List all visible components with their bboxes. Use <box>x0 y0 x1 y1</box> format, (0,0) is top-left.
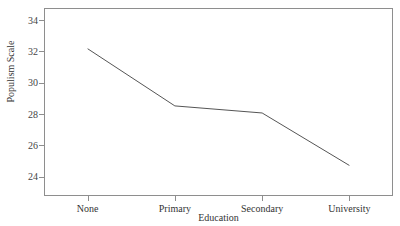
x-axis-tick-mark <box>88 196 89 201</box>
y-axis-tick-mark <box>39 145 44 146</box>
data-line-layer <box>44 8 393 196</box>
clipped-caption-sliver <box>4 0 396 1</box>
y-axis-tick-mark <box>39 114 44 115</box>
populism-scale-line <box>88 49 350 166</box>
y-axis-tick: 24 <box>0 171 44 183</box>
y-axis-tick-mark <box>39 51 44 52</box>
y-axis-tick-mark <box>39 20 44 21</box>
x-axis-title: Education <box>44 212 393 223</box>
y-axis-tick-mark <box>39 83 44 84</box>
x-axis-tick-mark <box>349 196 350 201</box>
y-axis-title: Populism Scale <box>5 7 16 137</box>
y-axis-tick: 26 <box>0 140 44 152</box>
y-axis-tick-mark <box>39 177 44 178</box>
x-axis-tick-mark <box>262 196 263 201</box>
x-axis-tick-mark <box>175 196 176 201</box>
figure-container: 242628303234 NonePrimarySecondaryUnivers… <box>0 0 400 226</box>
